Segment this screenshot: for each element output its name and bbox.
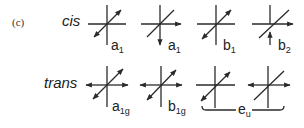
eu-bracket: eu [202,101,284,119]
trans-a1g-mode-symbol: a1g [86,66,130,116]
cis-b2-mode-symbol: b2 [252,5,293,55]
cis-a1-mode-symbol: a1 [88,5,126,55]
cis-a1-second-mode-symbol: a1 [141,5,181,55]
trans-eu-first-mode-symbol [196,66,235,108]
cis-b2-label: b2 [278,37,291,55]
cis-b1-label: b1 [223,37,236,55]
trans-eu-second-mode-symbol [248,66,290,108]
cis-a1-second-label: a1 [168,37,181,55]
trans-eu-label: eu [238,101,251,119]
trans-a1g-label: a1g [112,98,130,116]
trans-b1g-label: b1g [168,98,186,116]
cis-b1-mode-symbol: b1 [197,5,236,55]
cis-a1-label: a1 [111,37,124,55]
trans-b1g-mode-symbol: b1g [140,66,186,116]
vibrational-modes-diagram: a1 a1 b1 b2 a1g b1g [0,0,304,128]
